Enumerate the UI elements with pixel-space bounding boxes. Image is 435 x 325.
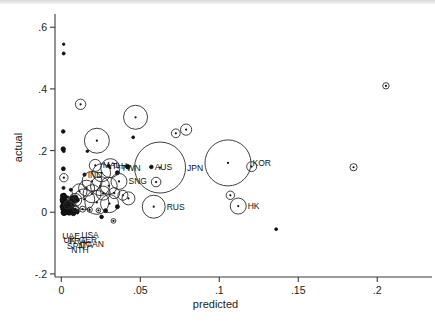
data-point-center-dot [74,207,76,209]
data-point-marker [62,150,65,153]
data-point-center-dot [67,204,69,206]
data-point-center-dot [89,209,91,211]
data-point-center-dot [118,180,120,182]
data-point-center-dot [108,185,110,187]
data-point-label: NTH [71,245,88,255]
data-point-center-dot [79,103,81,105]
data-point-center-dot [112,220,114,222]
data-point-marker [86,150,89,153]
data-point-label: AUS [155,162,173,172]
data-point-label: SNG [128,176,146,186]
data-point-marker [150,165,154,169]
data-point-center-dot [159,166,161,168]
data-point-marker [125,164,129,168]
data-point-marker [62,194,65,197]
data-point-center-dot [96,201,98,203]
y-tick-label: .6 [38,21,47,33]
data-point-marker [275,228,278,231]
data-point-marker [62,186,65,189]
data-point-center-dot [153,206,155,208]
data-point-center-dot [237,205,239,207]
data-point-marker [62,52,65,55]
x-tick-label: .2 [373,284,382,296]
data-point-center-dot [134,116,136,118]
data-point-center-dot [113,192,115,194]
y-tick-label: .2 [38,145,47,157]
data-point-marker [62,211,66,215]
data-point-marker [100,215,104,219]
data-point-center-dot [101,172,103,174]
data-point-marker [62,43,64,45]
data-point-center-dot [82,208,84,210]
x-tick-label: 0 [58,284,64,296]
data-point-label: TWN [121,163,140,173]
data-point-center-dot [185,129,187,131]
figure-root: -.20.2.4.60.05.1.15.2predictedactualMALT… [0,0,435,325]
data-point-marker [61,167,65,171]
y-axis-title: actual [12,133,24,162]
x-axis-title: predicted [193,298,238,310]
y-tick-label: -.2 [35,268,47,280]
data-point-center-dot [227,162,229,164]
data-point-center-dot [97,209,99,211]
data-point-label: HK [248,201,260,211]
data-point-marker [115,205,119,209]
data-point-marker [61,130,65,134]
data-point-label: JPN [187,163,203,173]
data-point-center-dot [96,140,98,142]
data-point-center-dot [63,177,65,179]
data-point-marker [132,136,135,139]
scatter-plot-canvas: -.20.2.4.60.05.1.15.2predictedactualMALT… [0,0,435,325]
data-point-center-dot [385,85,387,87]
data-point-label: RUS [167,202,185,212]
data-point-center-dot [155,181,157,183]
data-point-marker [104,209,108,213]
x-tick-label: .15 [291,284,306,296]
x-tick-label: .1 [215,284,224,296]
data-point-center-dot [251,166,253,168]
data-point-center-dot [108,203,110,205]
data-point-center-dot [127,197,129,199]
data-point-center-dot [229,194,231,196]
data-point-center-dot [352,166,354,168]
x-tick-label: .05 [133,284,148,296]
y-tick-label: 0 [41,206,47,218]
y-tick-label: .4 [38,83,47,95]
data-point-center-dot [175,132,177,134]
